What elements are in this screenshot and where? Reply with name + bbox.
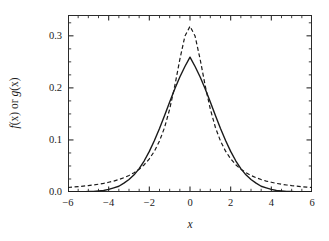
y-axis-title-f: f [8, 125, 20, 128]
x-tick-label: 2 [228, 198, 233, 209]
x-axis-title: x [187, 218, 192, 230]
figure-canvas: −6−4−20246 0.00.10.20.3 x f(x) or g(x) [0, 0, 329, 241]
y-tick-label: 0.0 [30, 187, 62, 198]
y-tick-label: 0.1 [30, 135, 62, 146]
x-tick-label: 0 [187, 198, 192, 209]
curve-g-of-x [68, 26, 312, 187]
x-tick-label: −4 [103, 198, 114, 209]
y-axis-title-g: g [8, 91, 20, 97]
y-tick-label: 0.3 [30, 31, 62, 42]
y-tick-label: 0.2 [30, 83, 62, 94]
y-axis-title: f(x) or g(x) [8, 77, 20, 128]
x-tick-label: −6 [62, 198, 73, 209]
y-axis-title-x1: (x) [8, 112, 20, 125]
x-tick-label: −2 [144, 198, 155, 209]
x-tick-label: 4 [269, 198, 274, 209]
curve-f-of-x [68, 57, 312, 192]
y-axis-title-x2: (x) [8, 77, 20, 90]
x-tick-label: 6 [309, 198, 314, 209]
y-axis-title-or: or [8, 97, 20, 112]
curve-layer [68, 15, 312, 192]
